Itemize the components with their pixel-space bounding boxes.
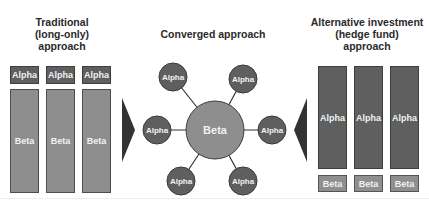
right-beta-label: Beta <box>359 179 379 189</box>
right-alpha-label: Alpha <box>320 113 345 123</box>
right-beta-box-2: Beta <box>354 175 383 192</box>
divider-line <box>0 198 429 199</box>
right-beta-box-3: Beta <box>390 175 419 192</box>
right-alpha-bar-3: Alpha <box>390 66 419 169</box>
alpha-spoke-label: Alpha <box>261 126 284 135</box>
alpha-spoke-label: Alpha <box>146 126 169 135</box>
right-alpha-label: Alpha <box>392 113 417 123</box>
right-alpha-bar-2: Alpha <box>354 66 383 169</box>
right-beta-label: Beta <box>395 179 415 189</box>
right-alpha-bar-1: Alpha <box>318 66 347 169</box>
alpha-spoke-label: Alpha <box>232 177 255 186</box>
left-arrow-icon <box>122 98 135 162</box>
alpha-spoke-label: Alpha <box>232 75 255 84</box>
right-alpha-label: Alpha <box>356 113 381 123</box>
right-arrow-icon <box>294 98 307 162</box>
beta-hub-label: Beta <box>203 124 228 136</box>
right-beta-label: Beta <box>323 179 343 189</box>
alpha-spoke-label: Alpha <box>162 73 185 82</box>
alpha-spoke-label: Alpha <box>170 177 193 186</box>
right-beta-box-1: Beta <box>318 175 347 192</box>
